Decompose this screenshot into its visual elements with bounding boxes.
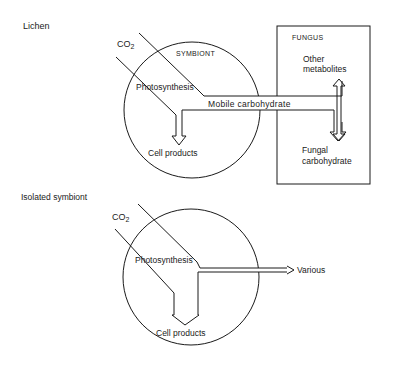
isolated-symbiont-section: Isolated symbiont CO2 Photosynthesis Var… xyxy=(21,192,325,345)
lichen-title: Lichen xyxy=(23,21,50,31)
fungal-carbohydrate-arrow xyxy=(330,122,346,141)
symbiont-label: SYMBIONT xyxy=(176,50,215,57)
fungus-label: FUNGUS xyxy=(292,34,323,41)
co2-label: CO2 xyxy=(117,39,135,50)
isolated-symbiont-title: Isolated symbiont xyxy=(21,192,88,202)
other-metabolites-label-line2: metabolites xyxy=(303,64,346,74)
isolated-cell-products-label: Cell products xyxy=(156,328,206,338)
photosynthesis-label: Photosynthesis xyxy=(136,82,194,92)
mobile-carbohydrate-label: Mobile carbohydrate xyxy=(208,99,291,109)
various-output-arrow xyxy=(197,262,294,274)
isolated-cell-products-arrow xyxy=(172,272,199,325)
isolated-symbiont-circle xyxy=(123,209,259,345)
fungal-carbohydrate-label-line2: carbohydrate xyxy=(302,156,352,166)
fungal-carbohydrate-label-line1: Fungal xyxy=(302,145,328,155)
isolated-co2-label: CO2 xyxy=(112,212,130,223)
cell-products-arrow xyxy=(172,113,186,145)
lichen-section: Lichen CO2 SYMBIONT xyxy=(23,21,370,184)
various-label: Various xyxy=(297,265,325,275)
other-metabolites-label-line1: Other xyxy=(303,54,324,64)
isolated-photosynthesis-label: Photosynthesis xyxy=(135,255,193,265)
lichen-carbon-flow-diagram: Lichen CO2 SYMBIONT xyxy=(0,0,396,366)
cell-products-label: Cell products xyxy=(148,148,198,158)
